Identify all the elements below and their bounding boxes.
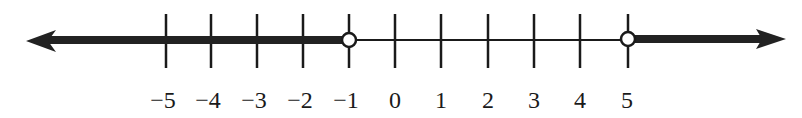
tick-label: −5 [150, 87, 176, 113]
tick-label: −2 [287, 87, 313, 113]
tick-label: 4 [574, 87, 586, 113]
open-point-5 [621, 32, 635, 46]
tick-label: −3 [241, 87, 267, 113]
tick-label: 0 [389, 87, 401, 113]
number-line: −5 −4 −3 −2 −1 0 1 2 3 4 5 [0, 0, 802, 118]
tick-label: −1 [333, 87, 359, 113]
tick-label: −4 [195, 87, 221, 113]
tick-label: 3 [528, 87, 540, 113]
open-point-neg1 [342, 33, 356, 47]
tick-label: 2 [482, 87, 494, 113]
tick-label: 5 [621, 87, 633, 113]
tick-label: 1 [435, 87, 447, 113]
tick-labels: −5 −4 −3 −2 −1 0 1 2 3 4 5 [150, 87, 633, 113]
shaded-ray-left [45, 36, 345, 44]
shaded-ray-right [632, 35, 762, 43]
